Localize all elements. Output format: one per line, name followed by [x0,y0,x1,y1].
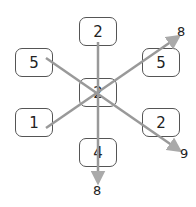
result-vertical: 8 [93,183,101,198]
diagonal-up-arrow [46,39,175,128]
result-diagonal-up: 8 [177,24,185,39]
diagonal-down-arrow [46,58,176,148]
result-diagonal-down: 9 [180,146,188,161]
arrows-layer [0,0,196,207]
